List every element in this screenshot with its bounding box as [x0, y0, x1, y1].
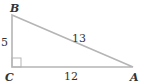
vertex-label-b: B [9, 2, 19, 15]
side-label-ab: 13 [72, 32, 86, 45]
triangle-diagram: B C A 5 13 12 [0, 0, 141, 84]
vertex-label-c: C [5, 71, 14, 84]
side-label-ca: 12 [64, 70, 78, 83]
vertex-label-a: A [129, 71, 139, 84]
side-label-bc: 5 [1, 36, 8, 49]
right-angle-marker [12, 58, 21, 67]
